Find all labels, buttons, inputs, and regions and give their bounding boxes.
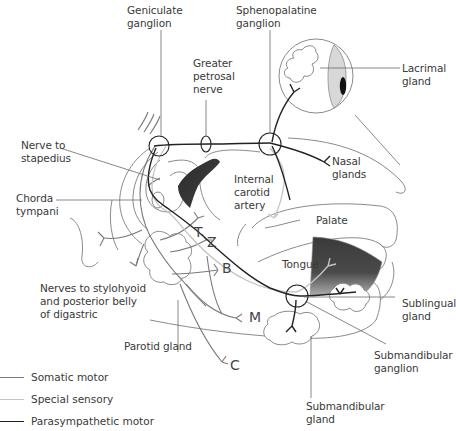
legend-item-special-sensory: Special sensory: [0, 392, 113, 406]
branch-letter-temporal: T: [194, 226, 202, 239]
label-nerve-to-stapedius: Nerve to stapedius: [21, 139, 71, 165]
legend-label: Special sensory: [31, 393, 113, 405]
legend-swatch-special-sensory: [0, 399, 24, 400]
label-sublingual-gland: Sublingual gland: [402, 297, 456, 323]
label-geniculate-ganglion: Geniculate ganglion: [127, 4, 183, 30]
label-lacrimal-gland: Lacrimal gland: [402, 62, 446, 88]
sphenopalatine-ganglion-marker: [259, 133, 281, 155]
legend-item-parasympathetic-motor: Parasympathetic motor: [0, 414, 154, 428]
label-submandibular-ganglion: Submandibular ganglion: [374, 349, 453, 375]
branch-letter-zygomatic: Z: [207, 236, 217, 249]
parotid-gland-shape: [144, 231, 192, 284]
label-nerves-to-stylohyoid: Nerves to stylohyoid and posterior belly…: [40, 282, 146, 321]
label-greater-petrosal-nerve: Greater petrosal nerve: [193, 57, 235, 96]
legend-swatch-somatic-motor: [0, 377, 24, 378]
petrous-shading: [178, 159, 220, 208]
legend-item-somatic-motor: Somatic motor: [0, 370, 108, 384]
branch-letter-cervical: C: [230, 359, 240, 372]
label-nasal-glands: Nasal glands: [332, 155, 366, 181]
label-submandibular-gland: Submandibular gland: [306, 400, 385, 426]
legend-label: Parasympathetic motor: [31, 415, 154, 427]
legend-swatch-parasympathetic-motor: [0, 421, 24, 422]
label-tongue: Tongue: [282, 258, 319, 271]
label-palate: Palate: [316, 214, 348, 227]
label-sphenopalatine-ganglion: Sphenopalatine ganglion: [236, 4, 317, 30]
label-parotid-gland: Parotid gland: [124, 340, 192, 353]
branch-letter-marginal-mandibular: M: [249, 311, 261, 324]
label-internal-carotid-artery: Internal carotid artery: [234, 173, 274, 212]
branch-letter-buccal: B: [222, 262, 232, 275]
label-chorda-tympani: Chorda tympani: [16, 192, 59, 218]
legend-label: Somatic motor: [31, 371, 108, 383]
